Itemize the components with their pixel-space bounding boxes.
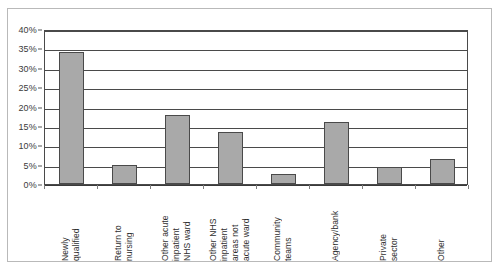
bar-private-sector [377, 167, 402, 184]
gridline-5% [45, 167, 467, 168]
gridline-20% [45, 109, 467, 110]
y-tick-mark [38, 107, 42, 108]
y-tick-mark [38, 146, 42, 147]
plot-area [44, 30, 468, 185]
x-tick-mark [362, 185, 363, 189]
x-category-label-line: Other [436, 189, 447, 261]
y-tick-mark [38, 30, 42, 31]
y-tick-mark [38, 185, 42, 186]
x-tick-mark [468, 185, 469, 189]
x-category-label-line: NHS ward [182, 189, 193, 261]
x-axis: NewlyqualifiedReturn tonursingOther acut… [44, 189, 468, 261]
bar-newly-qualified [59, 52, 84, 184]
y-tick-mark [38, 68, 42, 69]
x-tick-mark [415, 185, 416, 189]
x-tick-mark [97, 185, 98, 189]
bar-return-to-nursing [112, 165, 137, 184]
y-tick-mark [38, 165, 42, 166]
x-tick-mark [150, 185, 151, 189]
gridline-15% [45, 128, 467, 129]
x-category-label-line: teams [283, 189, 294, 261]
x-category-label-line: Other NHS [208, 189, 219, 261]
x-tick-mark [44, 185, 45, 189]
y-tick-label: 20% [18, 103, 37, 113]
y-tick-label: 5% [24, 161, 37, 171]
x-category-label-line: qualified [71, 189, 82, 261]
x-category-label-line: Newly [60, 189, 71, 261]
bar-other-acute-inpatient-nhs-ward [165, 115, 190, 184]
x-category-label-line: Return to [113, 189, 124, 261]
y-tick-mark [38, 88, 42, 89]
chart-outer-frame: 0%5%10%15%20%25%30%35%40% Newlyqualified… [7, 8, 492, 262]
x-category-label-line: nursing [124, 189, 135, 261]
y-tick-label: 15% [18, 122, 37, 132]
gridline-25% [45, 89, 467, 90]
y-axis: 0%5%10%15%20%25%30%35%40% [8, 30, 42, 185]
y-tick-label: 35% [18, 44, 37, 54]
x-category-label-line: sector [389, 189, 400, 261]
x-tick-mark [309, 185, 310, 189]
y-tick-label: 40% [18, 25, 37, 35]
bar-agency-bank [324, 122, 349, 184]
x-tick-mark [203, 185, 204, 189]
x-category-label-line: Agency/bank [330, 189, 341, 261]
y-tick-mark [38, 126, 42, 127]
x-category-label-line: Private [378, 189, 389, 261]
x-category-label-line: areas not [230, 189, 241, 261]
x-category-label-line: Community [272, 189, 283, 261]
y-tick-label: 25% [18, 83, 37, 93]
y-tick-label: 30% [18, 64, 37, 74]
x-category-label-line: inpatient [219, 189, 230, 261]
y-tick-mark [38, 49, 42, 50]
bar-community-teams [271, 174, 296, 184]
x-tick-mark [256, 185, 257, 189]
gridline-30% [45, 70, 467, 71]
x-category-label-line: acute ward [241, 189, 252, 261]
y-tick-label: 10% [18, 141, 37, 151]
x-category-label-line: inpatient [171, 189, 182, 261]
gridline-35% [45, 50, 467, 51]
bar-other [430, 159, 455, 184]
gridline-40% [45, 31, 467, 32]
gridline-10% [45, 147, 467, 148]
x-category-label-line: Other acute [160, 189, 171, 261]
y-tick-label: 0% [24, 180, 37, 190]
bar-other-nhs-inpatient-areas-not-acute-ward [218, 132, 243, 184]
